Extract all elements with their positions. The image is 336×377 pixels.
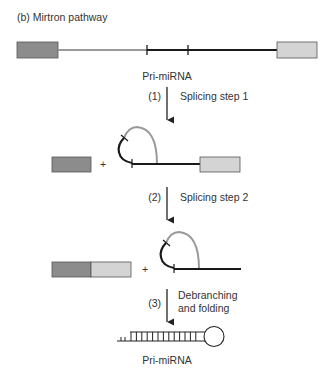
free-lariat-mirna-arc [161,243,174,268]
step3-number: (3) [148,297,161,309]
exon-right [277,42,317,58]
step2-label: Splicing step 2 [180,191,248,203]
plus-sign-2: + [142,263,148,275]
pri-mirna-label-top: Pri-miRNA [142,70,192,82]
exon-left-free [52,157,91,172]
hairpin-loop [204,327,224,347]
pre-mirna-hairpin [117,327,224,347]
step1-products: + [52,127,240,172]
step3-label-line2: and folding [178,302,230,314]
lariat-mirna-arc [119,138,132,163]
step2-number: (2) [148,191,161,203]
plus-sign-1: + [100,158,106,170]
free-lariat-loop-gray [166,232,199,269]
step3-label-line1: Debranching [178,289,238,301]
base-pairs [121,332,196,341]
step2-products: + [52,232,241,277]
figure-title: (b) Mirtron pathway [17,11,108,23]
exon-left [17,42,58,58]
primary-transcript [17,42,317,58]
step1-label: Splicing step 1 [180,90,248,102]
lariat-loop-gray [124,127,157,164]
pri-mirna-label-bottom: Pri-miRNA [142,354,192,366]
mirtron-diagram: (b) Mirtron pathway Pri-miRNA (1) Splici… [0,0,336,377]
ligated-exon-left [52,262,91,277]
exon-right-attached [200,157,240,172]
ligated-exon-right [91,262,131,277]
step1-number: (1) [148,90,161,102]
